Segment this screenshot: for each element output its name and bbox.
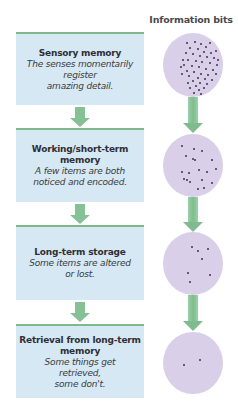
stage-description-line: A few items are both xyxy=(35,166,125,177)
stage-long-term-storage: Long-term storage Some items are altered… xyxy=(16,225,144,300)
stage-sensory-memory: Sensory memory The senses momentarily re… xyxy=(16,32,144,105)
information-bit-dot xyxy=(201,61,203,63)
information-bit-dot xyxy=(209,42,211,44)
information-bit-dot xyxy=(206,83,208,85)
information-bit-dot xyxy=(204,78,206,80)
information-bit-dot xyxy=(209,274,211,276)
stage-title: Retrieval from long-term xyxy=(19,335,140,346)
information-bit-dot xyxy=(200,93,202,95)
information-bit-dot xyxy=(192,80,194,82)
information-bit-dot xyxy=(200,73,202,75)
information-bit-dot xyxy=(189,181,191,183)
information-bit-dot xyxy=(205,68,207,70)
information-bit-dot xyxy=(215,50,217,52)
down-arrow-icon xyxy=(70,107,90,127)
stage-description-line: or lost. xyxy=(65,269,95,280)
information-bit-dot xyxy=(215,73,217,75)
information-bit-dot xyxy=(189,87,191,89)
information-bit-dot xyxy=(197,48,199,50)
stage-retrieval: Retrieval from long-term memory Some thi… xyxy=(16,324,144,398)
stage-working-memory: Working/short-term memory A few items ar… xyxy=(16,128,144,202)
information-bit-dot xyxy=(181,171,183,173)
stage-description-line: The senses momentarily xyxy=(27,59,133,70)
information-bit-dot xyxy=(206,56,208,58)
information-bit-dot xyxy=(188,172,190,174)
information-bits-circle-working xyxy=(163,134,223,197)
information-bits-circle-retrieval xyxy=(163,332,223,394)
information-bit-dot xyxy=(181,73,183,75)
information-bit-dot xyxy=(193,71,195,73)
information-bit-dot xyxy=(207,74,209,76)
information-bit-dot xyxy=(203,187,205,189)
stage-title: Long-term storage xyxy=(34,247,125,258)
information-bit-dot xyxy=(193,92,195,94)
information-bit-dot xyxy=(180,66,182,68)
stage-title: Working/short-term xyxy=(32,144,128,155)
information-bit-dot xyxy=(183,364,185,366)
information-bit-dot xyxy=(198,66,200,68)
information-bit-dot xyxy=(201,150,203,152)
information-bit-dot xyxy=(189,47,191,49)
information-bit-dot xyxy=(215,168,217,170)
information-bit-dot xyxy=(188,75,190,77)
information-bit-dot xyxy=(210,52,212,54)
information-bit-dot xyxy=(199,359,201,361)
stage-description-line: some don't. xyxy=(55,379,106,390)
information-bits-circle-sensory xyxy=(163,33,223,97)
information-bit-dot xyxy=(216,64,218,66)
information-bit-dot xyxy=(185,155,187,157)
information-bit-dot xyxy=(212,69,214,71)
information-bit-dot xyxy=(189,281,191,283)
information-bit-dot xyxy=(197,250,199,252)
information-bit-dot xyxy=(211,79,213,81)
information-bit-dot xyxy=(205,46,207,48)
information-bit-dot xyxy=(199,82,201,84)
information-bit-dot xyxy=(187,272,189,274)
down-arrow-icon xyxy=(183,97,203,134)
information-bit-dot xyxy=(217,59,219,61)
information-bit-dot xyxy=(194,159,196,161)
information-bit-dot xyxy=(191,246,193,248)
information-bit-dot xyxy=(207,248,209,250)
information-bits-label: Information bits xyxy=(148,14,234,25)
stage-description-line: register xyxy=(63,70,96,81)
information-bit-dot xyxy=(203,87,205,89)
down-arrow-icon xyxy=(70,302,90,322)
information-bit-dot xyxy=(201,179,203,181)
stage-description-line: amazing detail. xyxy=(47,81,113,92)
stage-description-line: Some items are altered xyxy=(29,258,131,269)
down-arrow-icon xyxy=(70,204,90,224)
information-bit-dot xyxy=(192,53,194,55)
information-bit-dot xyxy=(186,42,188,44)
information-bit-dot xyxy=(187,82,189,84)
information-bit-dot xyxy=(197,77,199,79)
information-bit-dot xyxy=(186,179,188,181)
information-bit-dot xyxy=(197,188,199,190)
down-arrow-icon xyxy=(183,295,203,333)
information-bit-dot xyxy=(195,85,197,87)
stage-description-line: retrieved, xyxy=(59,368,101,379)
information-bit-dot xyxy=(211,182,213,184)
information-bits-circle-long-term xyxy=(163,232,223,295)
stage-title: memory xyxy=(60,155,100,166)
information-bit-dot xyxy=(199,55,201,57)
information-bit-dot xyxy=(186,70,188,72)
information-bit-dot xyxy=(203,51,205,53)
information-bit-dot xyxy=(181,145,183,147)
information-bit-dot xyxy=(198,169,200,171)
information-bit-dot xyxy=(193,148,195,150)
down-arrow-icon xyxy=(183,197,203,233)
information-bit-dot xyxy=(200,43,202,45)
information-bit-dot xyxy=(201,258,203,260)
information-bit-dot xyxy=(194,41,196,43)
information-bit-dot xyxy=(211,159,213,161)
information-bit-dot xyxy=(185,52,187,54)
information-bit-dot xyxy=(195,60,197,62)
stage-title: Sensory memory xyxy=(39,48,122,59)
information-bit-dot xyxy=(213,57,215,59)
information-bit-dot xyxy=(206,171,208,173)
information-bit-dot xyxy=(187,59,189,61)
information-bit-dot xyxy=(182,59,184,61)
information-bit-dot xyxy=(183,64,185,66)
information-bit-dot xyxy=(209,62,211,64)
